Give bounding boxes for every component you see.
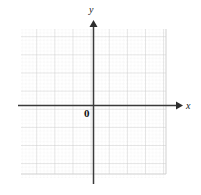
- coordinate-plane-figure: y x 0: [0, 0, 201, 195]
- x-axis-arrowhead: [176, 102, 183, 110]
- y-axis-arrowhead: [90, 20, 98, 27]
- coordinate-plane-svg: [0, 0, 201, 195]
- x-axis-label: x: [186, 101, 190, 111]
- origin-label: 0: [84, 108, 90, 119]
- y-axis-label: y: [89, 5, 93, 15]
